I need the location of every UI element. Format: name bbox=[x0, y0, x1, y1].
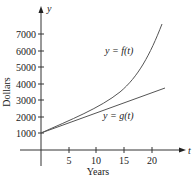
svg-text:2000: 2000 bbox=[16, 112, 36, 123]
svg-text:3000: 3000 bbox=[16, 95, 36, 106]
chart: y t 1000 2000 3000 4000 5000 6000 7000 5… bbox=[0, 0, 192, 179]
y-axis-arrow-icon bbox=[39, 6, 44, 13]
y-ticks: 1000 2000 3000 4000 5000 6000 7000 bbox=[16, 29, 44, 139]
y-axis-label: Dollars bbox=[1, 77, 12, 107]
series-f-label: y = f(t) bbox=[104, 45, 134, 57]
svg-text:5000: 5000 bbox=[16, 62, 36, 73]
x-axis-label: Years bbox=[87, 166, 109, 177]
svg-text:1000: 1000 bbox=[16, 128, 36, 139]
x-axis-symbol: t bbox=[188, 145, 191, 156]
svg-text:7000: 7000 bbox=[16, 29, 36, 40]
svg-text:5: 5 bbox=[67, 155, 72, 166]
y-axis-symbol: y bbox=[46, 3, 52, 14]
svg-text:15: 15 bbox=[119, 155, 129, 166]
series-g-label: y = g(t) bbox=[102, 110, 134, 122]
svg-text:20: 20 bbox=[147, 155, 157, 166]
series-f-curve bbox=[41, 24, 162, 133]
svg-text:10: 10 bbox=[91, 155, 101, 166]
svg-text:6000: 6000 bbox=[16, 46, 36, 57]
svg-text:4000: 4000 bbox=[16, 79, 36, 90]
x-axis-arrow-icon bbox=[179, 148, 186, 153]
